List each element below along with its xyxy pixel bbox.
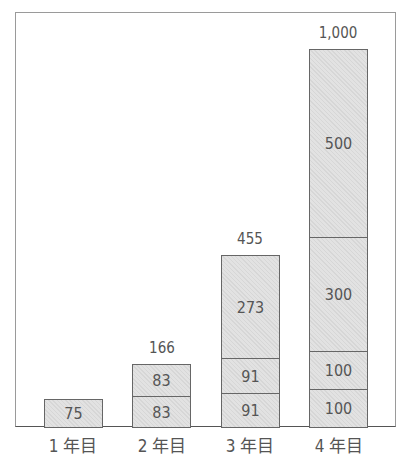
- total-label: 455: [210, 230, 290, 248]
- bar-year-2: 83 83: [132, 364, 191, 427]
- bar-year-1: 75: [44, 399, 103, 427]
- segment: 75: [44, 399, 103, 428]
- x-tick-label: 2 年目: [117, 432, 207, 457]
- segment: 83: [132, 364, 191, 397]
- x-tick-label: 4 年目: [294, 432, 384, 457]
- segment: 273: [221, 255, 280, 359]
- segment: 500: [309, 49, 368, 238]
- segment: 100: [309, 389, 368, 428]
- total-label: 1,000: [298, 24, 378, 42]
- total-label: 166: [122, 339, 202, 357]
- x-tick-label: 3 年目: [205, 432, 295, 457]
- bar-year-4: 500 300 100 100: [309, 49, 368, 427]
- segment: 91: [221, 393, 280, 428]
- segment: 300: [309, 237, 368, 352]
- segment: 83: [132, 396, 191, 428]
- segment: 100: [309, 351, 368, 390]
- bar-year-3: 273 91 91: [221, 255, 280, 427]
- segment: 91: [221, 358, 280, 394]
- x-tick-label: 1 年目: [28, 432, 118, 457]
